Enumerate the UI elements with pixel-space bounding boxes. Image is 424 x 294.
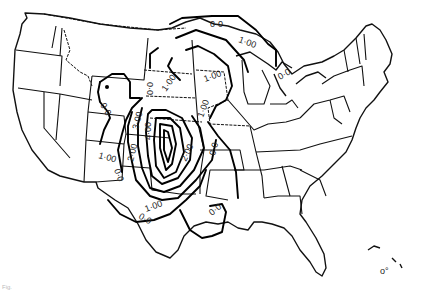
- contour-label-ok-2b: 2·00: [179, 142, 196, 163]
- location-dot: [105, 85, 109, 89]
- contour-label-gl-1: 1·00: [237, 34, 257, 50]
- contour-label-co-0: 0·0: [145, 82, 155, 95]
- figure-caption: Fig.: [2, 284, 12, 290]
- islands: [368, 246, 402, 268]
- contour-label-gl-0: 0·0: [210, 19, 223, 29]
- contour-label-nm-1: 1·00: [97, 150, 117, 164]
- canada-border: [44, 14, 186, 30]
- contours: [98, 16, 276, 238]
- contour-label-tx-0: 0·0: [137, 211, 153, 226]
- contour-label-ar-0: 0·0: [207, 141, 220, 156]
- contour-label-mi-0: 0·0: [276, 67, 292, 82]
- contour-label-ok-2a: 2·00: [125, 143, 139, 163]
- contour-label-tx-1: 1·00: [143, 198, 163, 214]
- contour-map: 0·0 0·0 1·00 0·0 1·00 1·00 0·0 1·00 3·00…: [0, 0, 424, 294]
- contour-label-ks-4: 4·00: [143, 122, 153, 140]
- islands-mark: o°: [380, 266, 389, 276]
- contour-labels: 0·0 0·0 1·00 0·0 1·00 1·00 0·0 1·00 3·00…: [97, 19, 292, 226]
